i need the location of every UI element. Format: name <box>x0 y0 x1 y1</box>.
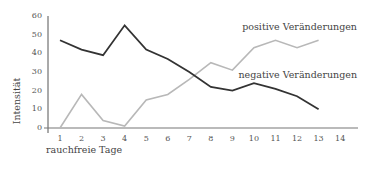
x-tick-label: 5 <box>144 134 149 143</box>
x-tick-label: 7 <box>187 134 192 143</box>
y-tick-labels: 0102030405060 <box>32 11 42 132</box>
y-tick-label: 0 <box>37 123 42 132</box>
x-tick-label: 2 <box>79 134 84 143</box>
x-tick-label: 3 <box>101 134 106 143</box>
x-tick-label: 14 <box>335 134 345 143</box>
y-tick-label: 30 <box>32 67 42 76</box>
x-axis-label: rauchfreie Tage <box>46 144 122 155</box>
x-tick-label: 10 <box>249 134 259 143</box>
series-line-negative <box>60 25 319 109</box>
y-tick-label: 50 <box>32 30 42 39</box>
x-tick-label: 13 <box>314 134 324 143</box>
x-tick-label: 12 <box>292 134 302 143</box>
x-tick-label: 8 <box>208 134 213 143</box>
x-tick-labels: 1234567891011121314 <box>57 134 345 143</box>
x-tick-label: 1 <box>57 134 62 143</box>
y-axis-label: Intensität <box>11 78 22 125</box>
y-tick-label: 60 <box>32 11 42 20</box>
legend-label-positive: positive Veränderungen <box>242 21 357 32</box>
y-tick-label: 10 <box>32 104 42 113</box>
line-chart: 0102030405060 1234567891011121314 Intens… <box>0 0 374 171</box>
x-tick-label: 11 <box>270 134 280 143</box>
y-tick-label: 20 <box>32 86 42 95</box>
x-tick-label: 4 <box>122 134 127 143</box>
x-tick-label: 6 <box>165 134 170 143</box>
y-tick-label: 40 <box>32 48 42 57</box>
x-tick-label: 9 <box>230 134 235 143</box>
legend-label-negative: negative Veränderungen <box>238 69 357 80</box>
